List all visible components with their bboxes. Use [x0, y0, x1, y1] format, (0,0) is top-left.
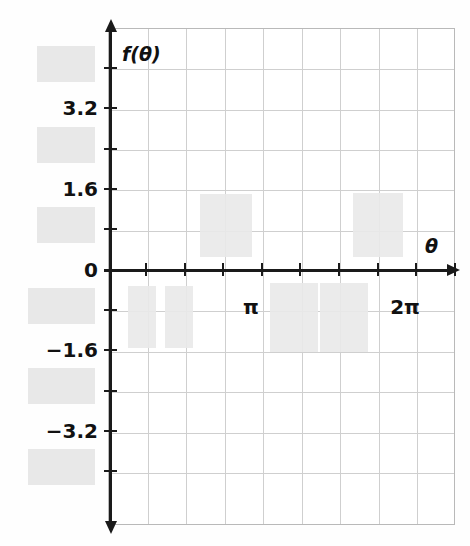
y-axis-tick-label: −1.6: [46, 340, 98, 360]
gridline-horizontal: [109, 150, 454, 151]
redaction-box-plot: [353, 193, 403, 257]
y-axis-tick: [104, 148, 117, 150]
redaction-box-label: [37, 207, 95, 243]
gridline-vertical: [379, 29, 380, 524]
redaction-box-plot: [200, 194, 252, 257]
x-axis-tick: [338, 263, 340, 276]
x-axis-tick: [261, 263, 263, 276]
y-axis-tick: [104, 269, 117, 271]
y-axis-tick: [104, 228, 117, 230]
gridline-horizontal: [109, 110, 454, 111]
redaction-box-plot: [320, 283, 368, 352]
y-axis-tick: [104, 349, 117, 351]
gridline-horizontal: [109, 473, 454, 474]
gridline-vertical: [417, 29, 418, 524]
y-axis-tick-label: 0: [84, 260, 98, 280]
graph-figure: 3.21.60−1.6−3.2 π2π f(θ) θ: [0, 0, 470, 546]
y-axis-tick: [104, 390, 117, 392]
gridline-vertical: [225, 29, 226, 524]
gridline-horizontal: [109, 392, 454, 393]
gridline-horizontal: [109, 433, 454, 434]
y-axis-tick: [104, 107, 117, 109]
x-axis-tick: [184, 263, 186, 276]
y-axis-tick: [104, 67, 117, 69]
redaction-box-label: [37, 127, 95, 163]
y-axis-tick: [104, 309, 117, 311]
y-axis-tick-label: 1.6: [63, 179, 98, 199]
gridline-vertical: [263, 29, 264, 524]
x-axis-line: [104, 269, 454, 272]
x-axis-tick-label: π: [243, 297, 259, 317]
x-axis-tick: [377, 263, 379, 276]
y-axis-tick-label: −3.2: [46, 421, 98, 441]
gridline-horizontal: [109, 69, 454, 70]
y-axis-title: f(θ): [122, 45, 161, 64]
redaction-box-label: [28, 288, 95, 324]
redaction-box-plot: [270, 283, 318, 352]
redaction-box-label: [28, 368, 95, 404]
x-axis-tick: [415, 263, 417, 276]
y-axis-tick-label: 3.2: [63, 98, 98, 118]
gridline-horizontal: [109, 190, 454, 191]
x-axis-tick: [222, 263, 224, 276]
x-axis-tick: [299, 263, 301, 276]
plot-area: [108, 28, 455, 525]
x-axis-tick-label: 2π: [390, 297, 420, 317]
gridline-vertical: [186, 29, 187, 524]
x-axis-tick: [145, 263, 147, 276]
y-axis-arrow-down-icon: [105, 521, 117, 534]
gridline-vertical: [148, 29, 149, 524]
redaction-box-label: [28, 449, 95, 485]
gridline-vertical: [302, 29, 303, 524]
gridline-vertical: [340, 29, 341, 524]
x-axis-tick: [454, 263, 456, 276]
y-axis-arrow-up-icon: [105, 19, 117, 32]
redaction-box-label: [37, 46, 95, 82]
y-axis-tick: [104, 430, 117, 432]
redaction-box-plot: [128, 286, 156, 348]
y-axis-tick: [104, 188, 117, 190]
redaction-box-plot: [165, 286, 193, 348]
x-axis-title: θ: [425, 237, 438, 256]
y-axis-line: [109, 30, 112, 528]
y-axis-tick: [104, 470, 117, 472]
